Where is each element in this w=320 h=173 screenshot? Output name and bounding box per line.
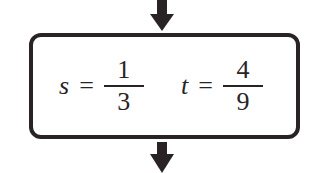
down-arrow-icon <box>150 142 174 173</box>
numerator: 4 <box>236 57 249 83</box>
denominator: 9 <box>236 89 249 115</box>
equals-sign: = <box>79 71 94 101</box>
denominator: 3 <box>117 89 130 115</box>
fraction-s: 1 3 <box>104 57 144 115</box>
variable-s: s <box>59 71 69 101</box>
numerator: 1 <box>117 57 130 83</box>
equals-sign: = <box>198 71 213 101</box>
variable-t: t <box>181 71 188 101</box>
equation-t: t = 4 9 <box>181 37 263 135</box>
fraction-t: 4 9 <box>223 57 263 115</box>
process-box: s = 1 3 t = 4 9 <box>29 33 300 139</box>
down-arrow-icon <box>150 0 174 32</box>
equation-s: s = 1 3 <box>59 37 144 135</box>
